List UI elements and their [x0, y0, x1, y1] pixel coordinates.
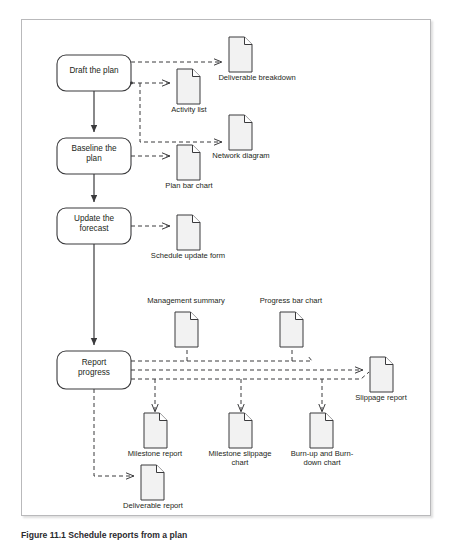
figure-root: Draft the plan Baseline the plan Update …	[0, 0, 451, 545]
dashed-connector-draft-to-activity-list	[130, 82, 170, 85]
figure-caption: Figure 11.1 Schedule reports from a plan	[21, 530, 187, 540]
figure-frame: Draft the plan Baseline the plan Update …	[21, 19, 431, 516]
process-box-report-progress[interactable]	[57, 351, 131, 389]
document-icon-network-diagram[interactable]	[229, 115, 252, 150]
document-icon-deliverable-breakdown[interactable]	[229, 37, 252, 72]
process-box-baseline-the-plan[interactable]	[57, 138, 131, 174]
process-box-update-the-forecast[interactable]	[57, 208, 131, 244]
document-icon-schedule-update-form[interactable]	[177, 215, 200, 250]
document-icon-activity-list[interactable]	[177, 69, 200, 104]
dashed-connector-report-to-deliverable-report	[94, 389, 134, 476]
document-icon-milestone-slippage-chart[interactable]	[229, 413, 252, 448]
document-icon-burn-up-burn-down-chart[interactable]	[310, 413, 333, 448]
document-icon-deliverable-report[interactable]	[141, 465, 164, 500]
process-box-draft-the-plan[interactable]	[57, 55, 131, 91]
dashed-connector-report-bottom-rail	[131, 372, 369, 379]
document-icon-plan-bar-chart[interactable]	[177, 145, 200, 180]
document-icon-milestone-report[interactable]	[144, 413, 167, 448]
document-icon-progress-bar-chart[interactable]	[280, 312, 303, 347]
document-icon-management-summary[interactable]	[175, 312, 198, 347]
schedule-reports-diagram	[22, 20, 430, 515]
document-icon-slippage-report[interactable]	[370, 357, 393, 392]
